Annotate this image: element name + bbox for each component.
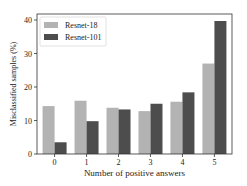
bar-resnet-101-3 xyxy=(150,104,162,154)
legend-swatch xyxy=(44,22,58,28)
x-axis-label: Number of positive answers xyxy=(84,168,186,178)
bar-resnet-18-1 xyxy=(75,101,87,154)
y-axis-ticks: 010203040 xyxy=(24,16,37,159)
bar-resnet-18-3 xyxy=(138,111,150,154)
legend-label: Resnet-101 xyxy=(65,33,101,42)
x-tick-label: 2 xyxy=(117,158,121,167)
bar-resnet-18-2 xyxy=(107,108,119,154)
x-tick-label: 1 xyxy=(85,158,89,167)
x-axis-ticks: 012345 xyxy=(53,154,217,167)
bar-resnet-101-4 xyxy=(182,92,194,154)
legend-swatch xyxy=(44,34,58,40)
legend-label: Resnet-18 xyxy=(65,21,97,30)
y-tick-label: 10 xyxy=(24,117,32,126)
y-tick-label: 30 xyxy=(24,50,32,59)
bar-resnet-101-5 xyxy=(214,21,226,154)
x-tick-label: 3 xyxy=(148,158,152,167)
y-tick-label: 20 xyxy=(24,83,32,92)
y-tick-label: 0 xyxy=(28,150,32,159)
bar-resnet-18-0 xyxy=(43,106,55,154)
x-tick-label: 0 xyxy=(53,158,57,167)
bar-resnet-101-1 xyxy=(87,121,99,154)
bar-chart: 010203040 012345 Number of positive answ… xyxy=(0,0,247,186)
x-tick-label: 4 xyxy=(180,158,184,167)
bar-resnet-101-2 xyxy=(119,109,131,154)
y-axis-label: Misclassified samples (%) xyxy=(9,41,18,126)
bar-resnet-101-0 xyxy=(55,142,67,154)
legend: Resnet-18Resnet-101 xyxy=(40,17,106,46)
x-tick-label: 5 xyxy=(212,158,216,167)
y-tick-label: 40 xyxy=(24,16,32,25)
bar-resnet-18-5 xyxy=(202,64,214,154)
bar-resnet-18-4 xyxy=(170,102,182,154)
